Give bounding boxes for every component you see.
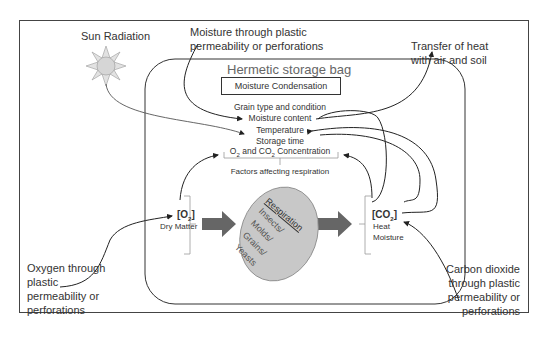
heat-transfer-label-1: Transfer of heat	[411, 40, 488, 53]
sun-icon	[86, 46, 126, 86]
oxygen-label-2: plastic	[27, 276, 58, 289]
dry-matter-label: Dry Matter	[160, 222, 197, 231]
moisture-output-label: Moisture	[373, 233, 404, 242]
co2-label-4: perforations	[420, 305, 520, 318]
o2-input: [O2]	[177, 209, 195, 222]
arrow-out	[318, 211, 352, 237]
oxygen-label-3: permeability or	[27, 290, 99, 303]
gas-concentration-label: O2 and CO2 Concentration	[220, 146, 340, 161]
factor-temperature: Temperature	[220, 125, 340, 136]
factor-moisture-content: Moisture content	[220, 113, 340, 124]
sun-radiation-label: Sun Radiation	[81, 30, 150, 43]
oxygen-label-4: perforations	[27, 304, 85, 317]
moisture-permeability-label-2: permeability or perforations	[190, 40, 323, 53]
moisture-condensation-box: Moisture Condensation	[221, 77, 341, 95]
co2-label-3: permeability or	[420, 291, 520, 304]
co2-label-2: through plastic	[420, 277, 520, 290]
co2-output: [CO2]	[372, 209, 397, 222]
factor-grain-type: Grain type and condition	[220, 102, 340, 113]
storage-bag	[145, 59, 465, 304]
co2-label-1: Carbon dioxide	[420, 263, 520, 276]
factors-affecting-respiration: Factors affecting respiration	[210, 166, 350, 177]
oxygen-label-1: Oxygen through	[27, 262, 105, 275]
heat-transfer-label-2: with air and soil	[411, 54, 487, 67]
heat-output-label: Heat	[373, 222, 390, 231]
moisture-permeability-label-1: Moisture through plastic	[190, 26, 307, 39]
arrow-in	[202, 211, 236, 237]
bag-title: Hermetic storage bag	[227, 62, 351, 77]
